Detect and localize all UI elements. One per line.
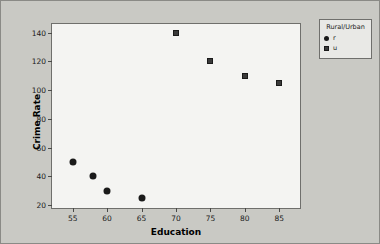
data-point-u	[276, 80, 282, 86]
x-axis-tick-label: 75	[206, 214, 216, 223]
y-axis-tick	[48, 176, 52, 177]
x-axis-tick-label: 85	[275, 214, 285, 223]
legend-item-label: r	[333, 34, 336, 42]
x-axis-tick-label: 70	[171, 214, 181, 223]
plot-frame: 2040608010012014055606570758085	[51, 23, 301, 209]
data-point-u	[207, 58, 213, 64]
y-axis-tick	[48, 90, 52, 91]
x-axis-tick-label: 65	[137, 214, 147, 223]
y-axis-tick	[48, 148, 52, 149]
y-axis-title: Crime Rate	[32, 94, 42, 150]
x-axis-tick	[107, 208, 108, 212]
data-point-u	[242, 73, 248, 79]
y-axis-tick-label: 120	[32, 57, 46, 66]
square-marker-icon	[324, 46, 329, 51]
x-axis-tick	[73, 208, 74, 212]
legend-rows: ru	[324, 34, 367, 52]
y-axis-tick-label: 40	[36, 172, 46, 181]
y-axis-tick-label: 20	[36, 201, 46, 210]
x-axis-tick-label: 60	[102, 214, 112, 223]
x-axis-tick	[176, 208, 177, 212]
legend-item-label: u	[333, 44, 337, 52]
legend-item-u[interactable]: u	[324, 44, 367, 52]
data-point-r	[104, 187, 111, 194]
y-axis-tick	[48, 205, 52, 206]
y-axis-tick	[48, 119, 52, 120]
data-point-r	[69, 159, 76, 166]
chart-screenshot: 2040608010012014055606570758085 Educatio…	[0, 0, 380, 244]
data-point-r	[138, 194, 145, 201]
legend: Rural/Urban ru	[319, 19, 372, 59]
x-axis-tick	[142, 208, 143, 212]
x-axis-tick-label: 55	[68, 214, 78, 223]
y-axis-tick-label: 140	[32, 28, 46, 37]
x-axis-tick	[245, 208, 246, 212]
data-point-r	[90, 173, 97, 180]
y-axis-tick	[48, 33, 52, 34]
x-axis-title: Education	[51, 227, 301, 237]
legend-title: Rural/Urban	[324, 23, 367, 31]
data-point-u	[173, 30, 179, 36]
y-axis-tick	[48, 61, 52, 62]
x-axis-tick	[210, 208, 211, 212]
legend-item-r[interactable]: r	[324, 34, 367, 42]
plot-area: 2040608010012014055606570758085	[52, 24, 300, 208]
x-axis-tick-label: 80	[240, 214, 250, 223]
x-axis-tick	[279, 208, 280, 212]
circle-marker-icon	[324, 36, 329, 41]
